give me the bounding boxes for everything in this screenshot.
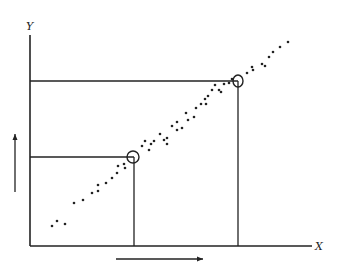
marked-points bbox=[127, 75, 243, 163]
data-point bbox=[185, 112, 188, 115]
x-increase-arrow-head-icon bbox=[197, 257, 203, 262]
data-point bbox=[252, 69, 255, 72]
data-point bbox=[144, 140, 147, 143]
data-point bbox=[97, 190, 100, 193]
data-point bbox=[193, 116, 196, 119]
data-point bbox=[123, 163, 126, 166]
data-point bbox=[56, 220, 59, 223]
data-point bbox=[141, 145, 144, 148]
data-point bbox=[176, 129, 179, 132]
data-point bbox=[166, 143, 169, 146]
data-point bbox=[207, 95, 210, 98]
data-point bbox=[176, 121, 179, 124]
data-point bbox=[159, 133, 162, 136]
data-point bbox=[218, 89, 221, 92]
direction-arrows bbox=[13, 134, 204, 262]
data-point bbox=[51, 225, 54, 228]
scatter-diagram: Y X bbox=[0, 0, 337, 280]
data-point bbox=[82, 199, 85, 202]
data-point bbox=[148, 149, 151, 152]
data-point bbox=[279, 46, 282, 49]
y-increase-arrow-head-icon bbox=[13, 134, 18, 140]
y-axis-label: Y bbox=[26, 20, 35, 33]
data-point bbox=[205, 103, 208, 106]
data-point bbox=[251, 66, 254, 69]
data-point bbox=[97, 184, 100, 187]
data-point bbox=[287, 41, 290, 44]
scatter-points bbox=[51, 41, 290, 228]
axes bbox=[30, 35, 312, 246]
data-point bbox=[64, 223, 67, 226]
data-point bbox=[163, 139, 166, 142]
data-point bbox=[111, 177, 114, 180]
data-point bbox=[171, 125, 174, 128]
data-point bbox=[150, 143, 153, 146]
data-point bbox=[195, 107, 198, 110]
data-point bbox=[166, 137, 169, 140]
data-point bbox=[268, 56, 271, 59]
data-point bbox=[105, 182, 108, 185]
data-point bbox=[117, 165, 120, 168]
data-point bbox=[181, 127, 184, 130]
data-point bbox=[116, 172, 119, 175]
data-point bbox=[261, 63, 264, 66]
data-point bbox=[264, 65, 267, 68]
data-point bbox=[272, 51, 275, 54]
data-point bbox=[246, 72, 249, 75]
data-point bbox=[200, 103, 203, 106]
data-point bbox=[223, 83, 226, 86]
data-point bbox=[187, 119, 190, 122]
data-point bbox=[211, 89, 214, 92]
data-point bbox=[228, 82, 231, 85]
data-point bbox=[204, 98, 207, 101]
data-point bbox=[124, 167, 127, 170]
data-point bbox=[73, 202, 76, 205]
data-point bbox=[153, 140, 156, 143]
data-point bbox=[214, 84, 217, 87]
data-point bbox=[91, 192, 94, 195]
x-axis-label: X bbox=[314, 240, 324, 253]
data-point bbox=[220, 91, 223, 94]
